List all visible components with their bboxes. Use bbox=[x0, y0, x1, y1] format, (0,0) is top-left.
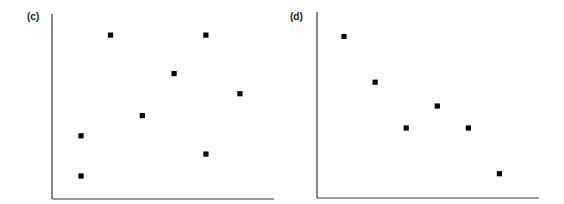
data-point-marker bbox=[373, 80, 378, 85]
data-point-marker bbox=[203, 152, 208, 157]
scatter-plot-c bbox=[0, 0, 282, 204]
data-point-marker bbox=[404, 125, 409, 130]
data-point-marker bbox=[140, 113, 145, 118]
panel-c: (c) bbox=[0, 0, 282, 204]
scatter-plot-d bbox=[282, 0, 564, 204]
data-point-marker bbox=[435, 103, 440, 108]
data-point-marker bbox=[341, 34, 346, 39]
data-point-marker bbox=[237, 91, 242, 96]
data-point-marker bbox=[172, 71, 177, 76]
data-point-marker bbox=[78, 133, 83, 138]
data-point-marker bbox=[108, 33, 113, 38]
data-point-marker bbox=[497, 171, 502, 176]
data-point-marker bbox=[203, 33, 208, 38]
data-point-marker bbox=[78, 173, 83, 178]
panel-d: (d) bbox=[282, 0, 564, 204]
data-point-marker bbox=[466, 125, 471, 130]
